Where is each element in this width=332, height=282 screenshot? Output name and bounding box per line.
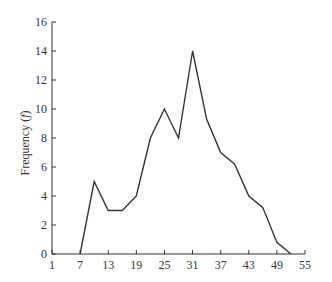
x-tick-label: 25: [158, 258, 170, 272]
x-tick-label: 55: [299, 258, 311, 272]
y-tick-label: 4: [41, 189, 47, 203]
x-tick-label: 49: [271, 258, 283, 272]
y-tick-label: 0: [41, 247, 47, 261]
y-tick-label: 12: [35, 73, 47, 87]
x-tick-label: 31: [187, 258, 199, 272]
y-tick-label: 2: [41, 218, 47, 232]
x-axis: 171319253137434955: [49, 250, 311, 272]
x-tick-label: 1: [49, 258, 55, 272]
y-axis-label-paren-open: (: [18, 118, 32, 125]
x-tick-label: 43: [243, 258, 255, 272]
x-tick-label: 13: [102, 258, 114, 272]
y-tick-label: 14: [35, 44, 47, 58]
y-tick-label: 8: [41, 131, 47, 145]
frequency-polygon-chart: 0246810121416 171319253137434955 Frequen…: [0, 0, 332, 282]
y-tick-label: 6: [41, 160, 47, 174]
y-tick-label: 10: [35, 102, 47, 116]
x-tick-label: 19: [130, 258, 142, 272]
y-axis-label: Frequency (f): [18, 111, 32, 176]
x-tick-label: 7: [77, 258, 83, 272]
y-tick-label: 16: [35, 15, 47, 29]
frequency-line: [80, 51, 291, 254]
y-axis-label-paren-close: ): [18, 111, 32, 115]
x-tick-label: 37: [215, 258, 227, 272]
y-axis-label-text: Frequency: [18, 125, 32, 176]
y-axis: 0246810121416: [35, 15, 56, 261]
